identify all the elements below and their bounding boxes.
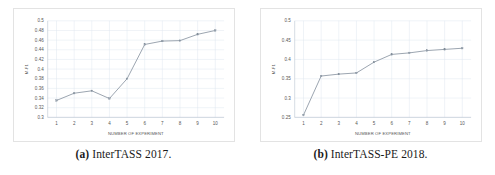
chart-b-series (302, 47, 462, 115)
svg-text:6: 6 (390, 121, 393, 126)
caption-b-text: InterTASS-PE 2018. (331, 148, 428, 160)
chart-b-xaxis-title: NUMBER OF EXPERIMENT (354, 131, 410, 136)
chart-panel-a: 0.50.480.460.440.420.40.380.360.340.320.… (13, 8, 235, 142)
chart-a-gridlines (47, 21, 223, 118)
svg-text:0.44: 0.44 (34, 47, 43, 52)
svg-text:9: 9 (196, 121, 199, 126)
caption-a-text: InterTASS 2017. (92, 148, 171, 160)
svg-text:0.48: 0.48 (34, 28, 43, 33)
svg-text:5: 5 (125, 121, 128, 126)
svg-text:0.4: 0.4 (37, 67, 44, 72)
line-chart-b: 0.50.450.40.350.30.25 12345678910 NUMBER… (261, 9, 481, 141)
caption-b-label: (b) (313, 148, 327, 160)
svg-text:0.42: 0.42 (34, 57, 43, 62)
svg-text:7: 7 (161, 121, 164, 126)
svg-text:3: 3 (337, 121, 340, 126)
chart-b-ytick-labels: 0.50.450.40.350.30.25 (281, 19, 290, 121)
svg-text:0.5: 0.5 (37, 19, 44, 24)
chart-a-xaxis-title: NUMBER OF EXPERIMENT (107, 131, 163, 136)
chart-a-yaxis-title: M-F1 (23, 63, 28, 74)
svg-text:0.35: 0.35 (281, 76, 290, 81)
svg-text:0.38: 0.38 (34, 76, 43, 81)
svg-text:0.25: 0.25 (281, 115, 290, 120)
svg-text:1: 1 (55, 121, 58, 126)
svg-text:0.3: 0.3 (284, 96, 291, 101)
svg-text:0.4: 0.4 (284, 57, 291, 62)
svg-text:0.34: 0.34 (34, 96, 43, 101)
svg-text:6: 6 (143, 121, 146, 126)
chart-b-gridlines (294, 21, 470, 118)
svg-text:8: 8 (178, 121, 181, 126)
chart-a-xtick-labels: 12345678910 (55, 121, 218, 126)
svg-text:8: 8 (425, 121, 428, 126)
chart-b-yaxis-title: M-F1 (270, 63, 275, 74)
svg-text:0.45: 0.45 (281, 38, 290, 43)
svg-text:0.36: 0.36 (34, 86, 43, 91)
svg-text:2: 2 (72, 121, 75, 126)
caption-a: (a) InterTASS 2017. (76, 148, 172, 160)
svg-text:3: 3 (90, 121, 93, 126)
svg-text:0.5: 0.5 (284, 19, 291, 24)
caption-b: (b) InterTASS-PE 2018. (313, 148, 427, 160)
svg-text:2: 2 (319, 121, 322, 126)
svg-text:0.3: 0.3 (37, 115, 44, 120)
line-chart-a: 0.50.480.460.440.420.40.380.360.340.320.… (14, 9, 234, 141)
svg-text:0.46: 0.46 (34, 38, 43, 43)
subfigure-b: 0.50.450.40.350.30.25 12345678910 NUMBER… (247, 0, 494, 175)
chart-a-ytick-labels: 0.50.480.460.440.420.40.380.360.340.320.… (34, 19, 43, 121)
svg-text:4: 4 (108, 121, 111, 126)
svg-text:4: 4 (355, 121, 358, 126)
svg-text:10: 10 (212, 121, 218, 126)
chart-b-xtick-labels: 12345678910 (302, 121, 465, 126)
svg-text:5: 5 (372, 121, 375, 126)
svg-text:1: 1 (302, 121, 305, 126)
svg-text:9: 9 (443, 121, 446, 126)
chart-a-series (55, 30, 215, 101)
chart-panel-b: 0.50.450.40.350.30.25 12345678910 NUMBER… (260, 8, 482, 142)
caption-a-label: (a) (76, 148, 90, 160)
svg-text:7: 7 (408, 121, 411, 126)
svg-text:10: 10 (459, 121, 465, 126)
subfigure-a: 0.50.480.460.440.420.40.380.360.340.320.… (0, 0, 247, 175)
svg-text:0.32: 0.32 (34, 105, 43, 110)
figure-two-panel-row: 0.50.480.460.440.420.40.380.360.340.320.… (0, 0, 495, 175)
